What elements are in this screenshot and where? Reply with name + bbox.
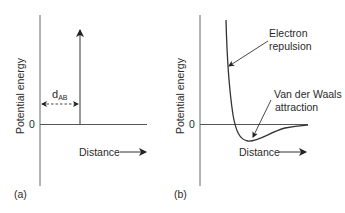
attraction-annotation: Van der Waals attraction xyxy=(274,88,345,113)
zero-tick-label: 0 xyxy=(189,118,195,130)
x-axis-label: Distance xyxy=(239,146,280,158)
y-axis-label: Potential energy xyxy=(14,57,26,134)
repulsion-annotation: Electron repulsion xyxy=(269,27,312,52)
potential-energy-diagram: dAB Potential energy 0 Distance (a) Elec… xyxy=(0,0,345,213)
y-axis-label: Potential energy xyxy=(174,57,186,134)
distance-marker-label: dAB xyxy=(52,88,68,101)
panel-a: dAB Potential energy 0 Distance (a) xyxy=(14,15,147,200)
repulsion-pointer xyxy=(229,41,268,66)
zero-tick-label: 0 xyxy=(29,118,35,130)
panel-b: Electron repulsion Van der Waals attract… xyxy=(174,15,345,200)
x-axis-label: Distance xyxy=(79,146,120,158)
attraction-pointer xyxy=(253,100,271,137)
panel-label: (b) xyxy=(174,188,187,200)
panel-label: (a) xyxy=(14,188,27,200)
